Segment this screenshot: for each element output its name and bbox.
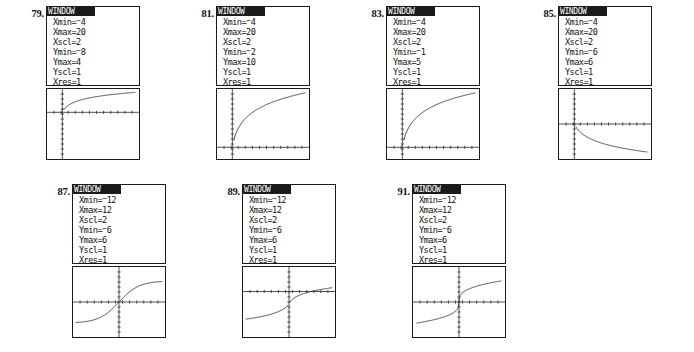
setting-xmax[interactable]: Xmax=12	[249, 205, 286, 215]
setting-xmin[interactable]: Xmin=−12	[419, 195, 456, 205]
window-title: WINDOW	[243, 185, 291, 194]
setting-xres[interactable]: Xres=1	[79, 255, 116, 265]
panel-number: 87.	[48, 186, 70, 197]
negative-sign: −	[246, 17, 250, 25]
graph-svg	[243, 267, 335, 337]
setting-xmax[interactable]: Xmax=20	[393, 27, 425, 37]
calculator-screens: WINDOWXmin=−12Xmax=12Xscl=2Ymin=−6Ymax=6…	[412, 184, 508, 338]
setting-ymin[interactable]: Ymin=−8	[53, 47, 85, 57]
negative-sign: −	[416, 47, 420, 55]
window-settings-list: Xmin=−4Xmax=20Xscl=2Ymin=−2Ymax=10Yscl=1…	[223, 17, 255, 87]
graph-svg	[47, 89, 139, 159]
window-settings-screen: WINDOWXmin=−12Xmax=12Xscl=2Ymin=−6Ymax=6…	[412, 184, 506, 264]
setting-ymax[interactable]: Ymax=10	[223, 57, 255, 67]
window-settings-screen: WINDOWXmin=−4Xmax=20Xscl=2Ymin=−2Ymax=10…	[216, 6, 310, 86]
setting-ymin[interactable]: Ymin=−2	[223, 47, 255, 57]
setting-xscl[interactable]: Xscl=2	[393, 37, 425, 47]
setting-yscl[interactable]: Yscl=1	[223, 67, 255, 77]
window-title: WINDOW	[387, 7, 435, 16]
negative-sign: −	[102, 195, 106, 203]
setting-xmin[interactable]: Xmin=−4	[53, 17, 85, 27]
setting-xres[interactable]: Xres=1	[419, 255, 456, 265]
setting-ymax[interactable]: Ymax=5	[393, 57, 425, 67]
panel-number: 89.	[218, 186, 240, 197]
window-settings-list: Xmin=−12Xmax=12Xscl=2Ymin=−6Ymax=6Yscl=1…	[249, 195, 286, 265]
setting-ymax[interactable]: Ymax=6	[249, 235, 286, 245]
setting-yscl[interactable]: Yscl=1	[53, 67, 85, 77]
setting-xres[interactable]: Xres=1	[53, 77, 85, 87]
setting-xscl[interactable]: Xscl=2	[565, 37, 597, 47]
window-title: WINDOW	[413, 185, 461, 194]
setting-ymax[interactable]: Ymax=6	[79, 235, 116, 245]
setting-ymax[interactable]: Ymax=6	[419, 235, 456, 245]
setting-xscl[interactable]: Xscl=2	[223, 37, 255, 47]
setting-ymin[interactable]: Ymin=−6	[79, 225, 116, 235]
setting-xres[interactable]: Xres=1	[223, 77, 255, 87]
graph-screen	[242, 266, 336, 338]
panel-number: 81.	[192, 8, 214, 19]
graph-screen	[46, 88, 140, 160]
panel-number: 79.	[22, 8, 44, 19]
setting-xscl[interactable]: Xscl=2	[79, 215, 116, 225]
window-settings-screen: WINDOWXmin=−4Xmax=20Xscl=2Ymin=−6Ymax=6Y…	[558, 6, 652, 86]
window-title: WINDOW	[47, 7, 95, 16]
setting-ymin[interactable]: Ymin=−6	[565, 47, 597, 57]
window-title: WINDOW	[73, 185, 121, 194]
setting-ymin[interactable]: Ymin=−6	[249, 225, 286, 235]
panel-number: 91.	[388, 186, 410, 197]
graph-svg	[217, 89, 309, 159]
graph-svg	[387, 89, 479, 159]
graph-screen	[558, 88, 652, 160]
setting-ymin[interactable]: Ymin=−1	[393, 47, 425, 57]
window-settings-list: Xmin=−4Xmax=20Xscl=2Ymin=−1Ymax=5Yscl=1X…	[393, 17, 425, 87]
setting-xscl[interactable]: Xscl=2	[419, 215, 456, 225]
graph-screen	[216, 88, 310, 160]
negative-sign: −	[102, 225, 106, 233]
setting-yscl[interactable]: Yscl=1	[419, 245, 456, 255]
setting-ymax[interactable]: Ymax=4	[53, 57, 85, 67]
calculator-screens: WINDOWXmin=−12Xmax=12Xscl=2Ymin=−6Ymax=6…	[72, 184, 168, 338]
negative-sign: −	[442, 195, 446, 203]
setting-xmin[interactable]: Xmin=−12	[249, 195, 286, 205]
setting-xmax[interactable]: Xmax=20	[223, 27, 255, 37]
setting-xscl[interactable]: Xscl=2	[249, 215, 286, 225]
calculator-screens: WINDOWXmin=−4Xmax=20Xscl=2Ymin=−1Ymax=5Y…	[386, 6, 482, 160]
window-settings-screen: WINDOWXmin=−12Xmax=12Xscl=2Ymin=−6Ymax=6…	[72, 184, 166, 264]
window-settings-list: Xmin=−12Xmax=12Xscl=2Ymin=−6Ymax=6Yscl=1…	[79, 195, 116, 265]
setting-xmin[interactable]: Xmin=−4	[393, 17, 425, 27]
setting-xmin[interactable]: Xmin=−12	[79, 195, 116, 205]
negative-sign: −	[416, 17, 420, 25]
window-settings-list: Xmin=−12Xmax=12Xscl=2Ymin=−6Ymax=6Yscl=1…	[419, 195, 456, 265]
setting-ymax[interactable]: Ymax=6	[565, 57, 597, 67]
negative-sign: −	[272, 195, 276, 203]
setting-xres[interactable]: Xres=1	[565, 77, 597, 87]
setting-xmax[interactable]: Xmax=12	[79, 205, 116, 215]
graph-screen	[386, 88, 480, 160]
setting-xres[interactable]: Xres=1	[249, 255, 286, 265]
negative-sign: −	[588, 17, 592, 25]
window-settings-screen: WINDOWXmin=−12Xmax=12Xscl=2Ymin=−6Ymax=6…	[242, 184, 336, 264]
setting-xmax[interactable]: Xmax=12	[419, 205, 456, 215]
setting-xmin[interactable]: Xmin=−4	[565, 17, 597, 27]
window-settings-list: Xmin=−4Xmax=20Xscl=2Ymin=−6Ymax=6Yscl=1X…	[565, 17, 597, 87]
negative-sign: −	[76, 17, 80, 25]
answer-key-sheet: 79.WINDOWXmin=−4Xmax=20Xscl=2Ymin=−8Ymax…	[0, 0, 694, 352]
calculator-screens: WINDOWXmin=−4Xmax=20Xscl=2Ymin=−6Ymax=6Y…	[558, 6, 654, 160]
graph-screen	[412, 266, 506, 338]
setting-xres[interactable]: Xres=1	[393, 77, 425, 87]
negative-sign: −	[272, 225, 276, 233]
setting-xmin[interactable]: Xmin=−4	[223, 17, 255, 27]
setting-yscl[interactable]: Yscl=1	[393, 67, 425, 77]
setting-ymin[interactable]: Ymin=−6	[419, 225, 456, 235]
graph-svg	[559, 89, 651, 159]
setting-xscl[interactable]: Xscl=2	[53, 37, 85, 47]
setting-yscl[interactable]: Yscl=1	[79, 245, 116, 255]
graph-screen	[72, 266, 166, 338]
graph-svg	[73, 267, 165, 337]
setting-xmax[interactable]: Xmax=20	[565, 27, 597, 37]
window-settings-screen: WINDOWXmin=−4Xmax=20Xscl=2Ymin=−8Ymax=4Y…	[46, 6, 140, 86]
setting-yscl[interactable]: Yscl=1	[565, 67, 597, 77]
setting-xmax[interactable]: Xmax=20	[53, 27, 85, 37]
setting-yscl[interactable]: Yscl=1	[249, 245, 286, 255]
window-settings-list: Xmin=−4Xmax=20Xscl=2Ymin=−8Ymax=4Yscl=1X…	[53, 17, 85, 87]
